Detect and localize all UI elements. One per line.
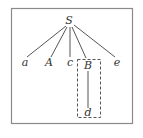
edge-S-e <box>74 25 115 57</box>
node-e: e <box>114 56 121 69</box>
node-B: B <box>83 59 92 72</box>
node-c: c <box>67 56 73 69</box>
parse-tree-diagram: S a A c B e d <box>0 0 143 138</box>
node-a: a <box>22 56 29 69</box>
node-A: A <box>44 56 53 69</box>
edge-S-B <box>72 27 86 58</box>
node-S: S <box>65 14 73 27</box>
node-d: d <box>84 106 91 119</box>
edge-S-a <box>27 26 66 57</box>
